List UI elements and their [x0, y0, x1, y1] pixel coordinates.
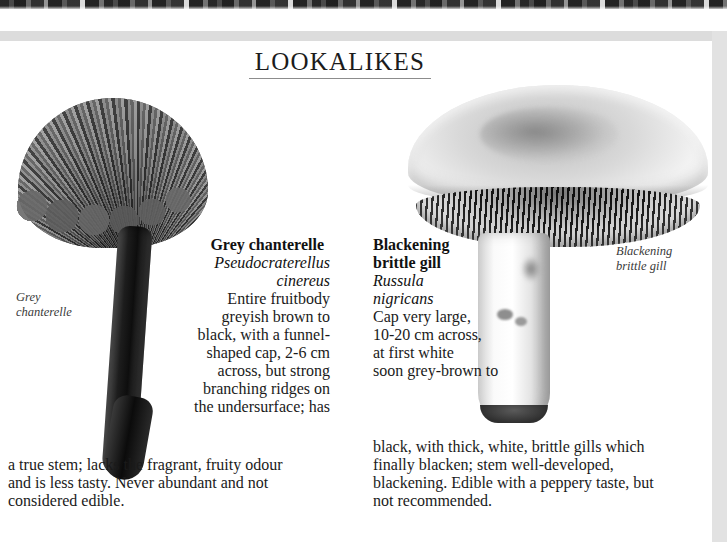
species-description-tail-blackening-brittle-gill: black, with thick, white, brittle gills …	[373, 438, 713, 510]
species-description-line: across, but strong	[0, 362, 330, 380]
species-description-line: not recommended.	[373, 492, 713, 510]
species-description-line: black, with thick, white, brittle gills …	[373, 438, 713, 456]
species-description-line: considered edible.	[8, 492, 358, 510]
species-common-name: Grey chanterelle	[0, 236, 330, 254]
species-description-line: Entire fruitbody	[0, 290, 330, 308]
species-description-line: 10-20 cm across,	[373, 326, 703, 344]
species-description-tail-grey-chanterelle: a true stem; lacks the fragrant, fruity …	[8, 456, 358, 510]
species-description-line: black, with a funnel-	[0, 326, 330, 344]
species-description-line: at first white	[373, 344, 703, 362]
species-common-name-line: brittle gill	[373, 254, 703, 272]
species-description-line: shaped cap, 2-6 cm	[0, 344, 330, 362]
species-description-line: greyish brown to	[0, 308, 330, 326]
species-description-line: Cap very large,	[373, 308, 703, 326]
species-entry-blackening-brittle-gill: Blackening brittle gill Russula nigrican…	[373, 236, 703, 380]
species-description-line: soon grey-brown to	[373, 362, 703, 380]
russula-cap-blotch	[480, 107, 618, 162]
page-title: LOOKALIKES	[249, 48, 431, 79]
species-description-line: a true stem; lacks the fragrant, fruity …	[8, 456, 358, 474]
species-description-line: and is less tasty. Never abundant and no…	[8, 474, 358, 492]
species-latin-name-line: Russula	[373, 272, 703, 290]
species-description-line: branching ridges on	[0, 380, 330, 398]
scanned-page: LOOKALIKES	[0, 0, 727, 542]
chanterelle-cap-rim	[18, 98, 208, 149]
species-common-name-line: Blackening	[373, 236, 703, 254]
species-description-line: finally blacken; stem well-developed,	[373, 456, 713, 474]
section-heading: LOOKALIKES	[0, 48, 680, 79]
species-description-line: blackening. Edible with a peppery taste,…	[373, 474, 713, 492]
page-content: LOOKALIKES	[0, 41, 712, 542]
scan-margin-top	[0, 31, 727, 41]
strip-fade	[0, 6, 727, 10]
species-latin-name-line: Pseudocraterellus	[0, 254, 330, 272]
species-latin-name-line: nigricans	[373, 290, 703, 308]
species-entry-grey-chanterelle: Grey chanterelle Pseudocraterellus ciner…	[0, 236, 330, 416]
species-latin-name-line: cinereus	[0, 272, 330, 290]
species-description-line: the undersurface; has	[0, 398, 330, 416]
russula-stem-base	[480, 405, 548, 423]
